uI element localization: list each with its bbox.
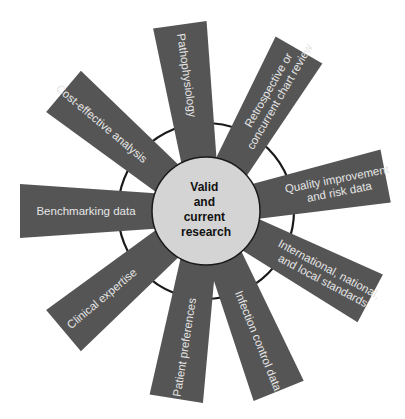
center-line-4: research — [181, 225, 231, 239]
blade-label-line: Benchmarking data — [36, 205, 136, 217]
center-line-2: and — [194, 195, 215, 209]
evidence-diagram: PathophysiologyRetrospective orconcurren… — [0, 0, 405, 419]
center-line-1: Valid — [190, 180, 218, 194]
blade-benchmarking: Benchmarking data — [20, 184, 166, 238]
center-line-3: current — [184, 210, 225, 224]
blade-quality: Quality improvementand risk data — [240, 149, 396, 230]
diagram-canvas: PathophysiologyRetrospective orconcurren… — [0, 0, 405, 419]
blade-label: Benchmarking data — [36, 205, 136, 217]
